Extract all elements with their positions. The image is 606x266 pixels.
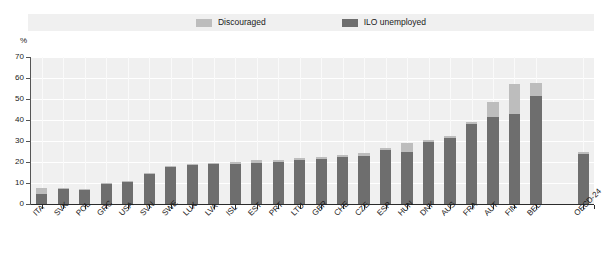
legend-label-discouraged: Discouraged [218, 18, 266, 27]
bar-segment-ilo-unemployed [251, 163, 262, 204]
bar-svn[interactable] [144, 57, 155, 204]
y-axis-tick-label: 20 [7, 158, 24, 166]
bar-esp[interactable] [380, 57, 391, 204]
y-axis-line [30, 57, 31, 204]
bar-segment-ilo-unemployed [208, 164, 219, 204]
bar-segment-ilo-unemployed [273, 162, 284, 204]
bar-bel[interactable] [530, 57, 541, 204]
bar-segment-ilo-unemployed [337, 157, 348, 204]
y-axis-tick [26, 141, 31, 142]
bar-dnk[interactable] [423, 57, 434, 204]
y-axis-tick [26, 183, 31, 184]
bar-segment-ilo-unemployed [466, 124, 477, 204]
bar-segment-discouraged [58, 188, 69, 189]
bar-usa[interactable] [122, 57, 133, 204]
bar-segment-ilo-unemployed [444, 138, 455, 204]
bar-segment-discouraged [230, 162, 241, 164]
bar-segment-discouraged [509, 84, 520, 113]
bar-isl[interactable] [230, 57, 241, 204]
bar-segment-ilo-unemployed [423, 142, 434, 204]
bar-segment-ilo-unemployed [487, 117, 498, 204]
bar-lux[interactable] [187, 57, 198, 204]
y-axis-tick-label: 30 [7, 137, 24, 145]
bar-segment-ilo-unemployed [380, 150, 391, 204]
bar-ita[interactable] [36, 57, 47, 204]
bar-segment-discouraged [187, 164, 198, 165]
bar-segment-discouraged [294, 158, 305, 160]
x-axis-label-ita: ITA [32, 204, 46, 218]
bar-segment-ilo-unemployed [509, 114, 520, 204]
x-axis-tick-end [594, 205, 595, 209]
legend-label-ilo-unemployed: ILO unemployed [364, 18, 426, 27]
x-axis-label-isl: ISL [225, 204, 239, 218]
bar-ltu[interactable] [294, 57, 305, 204]
y-axis-tick [26, 162, 31, 163]
y-axis-tick-label: 40 [7, 116, 24, 124]
bar-segment-ilo-unemployed [36, 194, 47, 205]
y-axis-tick-label: 60 [7, 74, 24, 82]
plot-area [31, 57, 594, 204]
bar-segment-discouraged [530, 83, 541, 96]
bar-segment-discouraged [101, 183, 112, 184]
y-axis-tick-label: 50 [7, 95, 24, 103]
bar-lva[interactable] [208, 57, 219, 204]
y-axis-tick [26, 78, 31, 79]
bar-segment-ilo-unemployed [230, 164, 241, 204]
bar-aut[interactable] [487, 57, 498, 204]
bar-hun[interactable] [401, 57, 412, 204]
bar-segment-discouraged [122, 181, 133, 182]
bar-segment-ilo-unemployed [530, 96, 541, 204]
x-axis-label-fin: FIN [504, 203, 519, 218]
bar-segment-discouraged [208, 163, 219, 164]
bar-segment-discouraged [144, 173, 155, 174]
bar-svk[interactable] [58, 57, 69, 204]
bar-segment-ilo-unemployed [165, 167, 176, 204]
y-axis-tick-label: 0 [7, 200, 24, 208]
legend-item-discouraged[interactable]: Discouraged [196, 18, 266, 27]
legend-item-ilo-unemployed[interactable]: ILO unemployed [342, 18, 426, 27]
bar-pol[interactable] [79, 57, 90, 204]
bar-segment-discouraged [316, 157, 327, 159]
chart-legend: Discouraged ILO unemployed [28, 14, 594, 31]
bar-segment-discouraged [380, 148, 391, 150]
legend-swatch-discouraged [196, 19, 212, 27]
bar-segment-discouraged [273, 160, 284, 162]
bar-segment-ilo-unemployed [294, 160, 305, 204]
bar-segment-discouraged [36, 188, 47, 193]
bar-segment-ilo-unemployed [187, 165, 198, 204]
bar-segment-ilo-unemployed [401, 152, 412, 205]
bar-segment-discouraged [466, 122, 477, 124]
bar-fin[interactable] [509, 57, 520, 204]
bar-segment-discouraged [401, 143, 412, 151]
bar-swe[interactable] [165, 57, 176, 204]
bar-segment-ilo-unemployed [316, 159, 327, 204]
bar-segment-discouraged [337, 155, 348, 157]
y-axis-tick-label: 10 [7, 179, 24, 187]
bar-segment-discouraged [444, 136, 455, 138]
bar-segment-discouraged [358, 153, 369, 156]
bar-segment-discouraged [79, 189, 90, 190]
bar-segment-discouraged [487, 102, 498, 117]
y-axis-tick [26, 120, 31, 121]
y-axis-tick-label: 70 [7, 53, 24, 61]
bar-grc[interactable] [101, 57, 112, 204]
chart-figure: Discouraged ILO unemployed % 01020304050… [0, 0, 606, 266]
y-axis-tick [26, 57, 31, 58]
bar-oecd-24[interactable] [578, 57, 589, 204]
bar-gbr[interactable] [316, 57, 327, 204]
legend-swatch-ilo-unemployed [342, 19, 358, 27]
y-axis-unit-label: % [20, 36, 27, 45]
bar-segment-discouraged [423, 140, 434, 142]
bar-prt[interactable] [273, 57, 284, 204]
y-axis-tick [26, 204, 31, 205]
bar-segment-discouraged [165, 166, 176, 167]
bar-segment-discouraged [251, 160, 262, 163]
bar-aus[interactable] [444, 57, 455, 204]
bar-che[interactable] [337, 57, 348, 204]
bar-fra[interactable] [466, 57, 477, 204]
bar-segment-ilo-unemployed [358, 156, 369, 204]
bar-segment-discouraged [578, 152, 589, 154]
bar-est[interactable] [251, 57, 262, 204]
bar-cze[interactable] [358, 57, 369, 204]
y-axis-tick [26, 99, 31, 100]
